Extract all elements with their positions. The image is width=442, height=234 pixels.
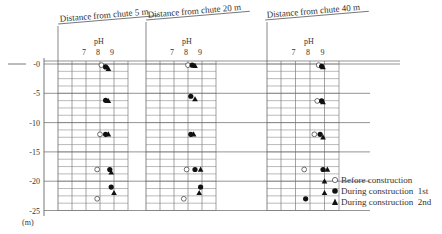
point-during-construction-1st: [188, 94, 193, 99]
point-before-construction: [181, 196, 186, 201]
point-during-construction-1st: [198, 184, 203, 189]
ph-depth-chart: -0-5-10-15-20-25(m)Distance from chute 5…: [0, 0, 442, 234]
ph-axis-label: pH: [182, 37, 192, 46]
panel-title: Distance from chute 5 m: [59, 6, 149, 23]
legend-label: During construction 2nd: [341, 197, 432, 207]
ph-tick-label: 9: [198, 48, 202, 57]
point-before-construction: [95, 196, 100, 201]
y-tick-label: -25: [29, 207, 40, 216]
y-tick-label: -10: [29, 119, 40, 128]
y-axis-unit: (m): [22, 218, 34, 227]
ph-tick-label: 8: [306, 48, 310, 57]
ph-tick-label: 8: [184, 48, 188, 57]
point-before-construction: [95, 167, 100, 172]
point-during-construction-1st: [303, 196, 308, 201]
ph-tick-label: 7: [82, 48, 86, 57]
point-before-construction: [184, 167, 189, 172]
legend-label: During construction 1st: [341, 186, 429, 196]
panel-title: Distance from chute 40 m: [266, 2, 360, 20]
ph-tick-label: 9: [321, 48, 325, 57]
legend: Before constructionDuring construction 1…: [332, 175, 432, 207]
ph-axis-label: pH: [94, 37, 104, 46]
panel-chute-5m: Distance from chute 5 mpH789: [57, 6, 157, 211]
point-during-construction-1st: [318, 132, 323, 137]
legend-triangle-icon: [332, 199, 338, 206]
ph-tick-label: 8: [96, 48, 100, 57]
point-before-construction: [98, 132, 103, 137]
panel-chute-20m: Distance from chute 20 mpH789: [145, 1, 249, 210]
ph-tick-label: 9: [110, 48, 114, 57]
point-during-construction-1st: [109, 184, 114, 189]
panel-title: Distance from chute 20 m: [147, 2, 241, 20]
point-before-construction: [315, 99, 320, 104]
point-during-construction-1st: [192, 167, 197, 172]
ph-tick-label: 7: [170, 48, 174, 57]
legend-filled-circle-icon: [332, 188, 338, 194]
legend-label: Before construction: [341, 175, 413, 185]
point-during-construction-2nd: [198, 166, 204, 171]
point-before-construction: [312, 132, 317, 137]
point-during-construction-2nd: [196, 190, 202, 195]
y-tick-label: -20: [29, 177, 40, 186]
point-during-construction-2nd: [111, 190, 117, 195]
depth-axis: -0-5-10-15-20-25(m): [8, 58, 44, 227]
ph-axis-label: pH: [304, 37, 314, 46]
ph-tick-label: 7: [292, 48, 296, 57]
y-tick-label: -5: [33, 89, 40, 98]
y-tick-label: -0: [33, 60, 40, 69]
point-before-construction: [302, 167, 307, 172]
y-tick-label: -15: [29, 148, 40, 157]
legend-open-circle-icon: [332, 177, 337, 182]
point-during-construction-2nd: [322, 190, 328, 195]
point-during-construction-2nd: [322, 178, 328, 183]
